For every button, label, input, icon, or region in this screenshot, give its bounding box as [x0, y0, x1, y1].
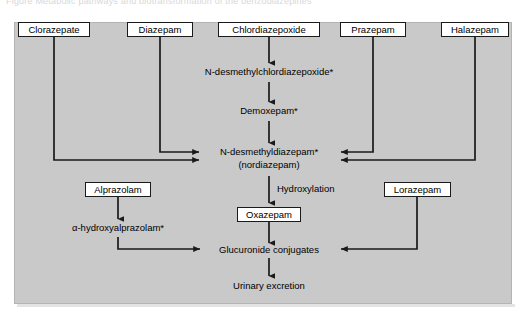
edge-label-hydroxylation: Hydroxylation [277, 183, 335, 194]
node-halazepam[interactable]: Halazepam [441, 22, 509, 37]
node-prazepam-label: Prazepam [351, 25, 394, 35]
node-n-desmethylchlordiazepoxide-label: N-desmethylchlordiazepoxide* [205, 66, 333, 77]
node-lorazepam-label: Lorazepam [394, 185, 442, 195]
node-lorazepam[interactable]: Lorazepam [384, 182, 451, 197]
node-halazepam-label: Halazepam [451, 25, 499, 35]
node-demoxepam: Demoxepam* [219, 106, 319, 116]
node-urinary-excretion: Urinary excretion [214, 281, 324, 291]
node-nordiazepam-alias: (nordiazepam) [199, 160, 339, 170]
edge-label-hydroxylation-text: Hydroxylation [277, 183, 335, 194]
node-n-desmethyldiazepam: N-desmethyldiazepam* [189, 147, 349, 157]
node-oxazepam-label: Oxazepam [246, 210, 292, 220]
node-alpha-hydroxyalprazolam-label: α-hydroxyalprazolam* [72, 222, 164, 233]
node-prazepam[interactable]: Prazepam [340, 22, 406, 37]
node-n-desmethyldiazepam-label: N-desmethyldiazepam* [220, 146, 318, 157]
node-clorazepate-label: Clorazepate [28, 25, 79, 35]
node-chlordiazepoxide-label: Chlordiazepoxide [232, 25, 305, 35]
node-diazepam[interactable]: Diazepam [127, 22, 193, 37]
figure-caption-clipped: Figure Metabolic pathways and biotransfo… [6, 0, 506, 8]
node-glucuronide-conjugates: Glucuronide conjugates [199, 245, 339, 255]
node-nordiazepam-alias-label: (nordiazepam) [238, 159, 299, 170]
node-alprazolam[interactable]: Alprazolam [85, 182, 151, 197]
node-glucuronide-conjugates-label: Glucuronide conjugates [219, 244, 319, 255]
node-urinary-excretion-label: Urinary excretion [233, 280, 305, 291]
node-oxazepam[interactable]: Oxazepam [237, 207, 301, 222]
diagram-panel-shadow [17, 304, 515, 307]
node-chlordiazepoxide[interactable]: Chlordiazepoxide [218, 22, 320, 37]
node-n-desmethylchlordiazepoxide: N-desmethylchlordiazepoxide* [169, 67, 369, 77]
node-alprazolam-label: Alprazolam [94, 185, 142, 195]
node-clorazepate[interactable]: Clorazepate [18, 22, 90, 37]
node-alpha-hydroxyalprazolam: α-hydroxyalprazolam* [43, 223, 193, 233]
node-diazepam-label: Diazepam [139, 25, 182, 35]
node-demoxepam-label: Demoxepam* [240, 105, 298, 116]
metabolic-pathway-diagram: Figure Metabolic pathways and biotransfo… [0, 0, 524, 319]
